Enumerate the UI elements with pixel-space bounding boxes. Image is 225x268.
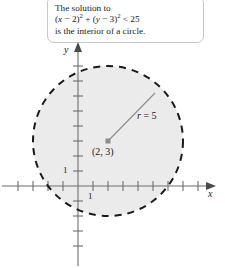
y-axis-label: y xyxy=(64,44,68,55)
coordinate-plot: y x r = 5 (2, 3) 1 1 xyxy=(0,0,225,268)
graph-figure: The solution to (x − 2)2 + (y − 3)2 < 25… xyxy=(0,0,225,268)
y-axis-arrow-icon xyxy=(74,42,82,52)
plot-canvas xyxy=(0,0,225,268)
x-axis-label: x xyxy=(208,188,212,199)
center-point-marker xyxy=(106,139,111,144)
radius-label: r = 5 xyxy=(137,110,157,121)
center-point-label: (2, 3) xyxy=(92,146,114,157)
x-axis-unit-label: 1 xyxy=(88,191,93,201)
y-axis-unit-label: 1 xyxy=(63,165,68,175)
